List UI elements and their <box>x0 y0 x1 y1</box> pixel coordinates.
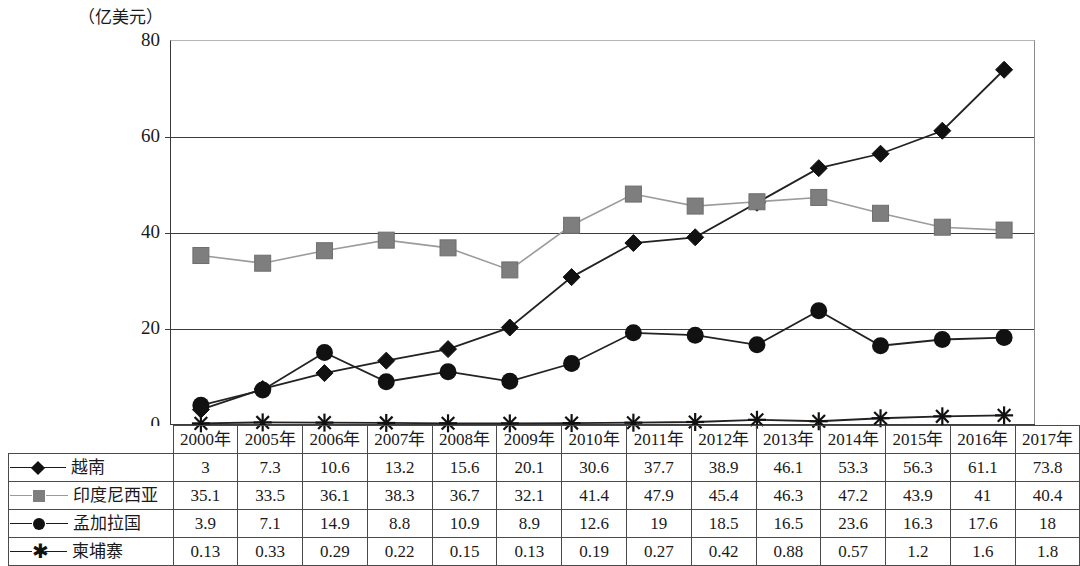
table-cell: 61.1 <box>950 454 1015 482</box>
table-cell: 0.33 <box>238 538 303 566</box>
table-header-row: 2000年2005年2006年2007年2008年2009年2010年2011年… <box>9 426 1080 454</box>
table-corner <box>9 426 174 454</box>
table-cell: 38.3 <box>367 482 432 510</box>
table-cell: 53.3 <box>821 454 886 482</box>
table-cell: 1.6 <box>950 538 1015 566</box>
legend-line <box>10 467 32 468</box>
table-cell: 47.9 <box>626 482 691 510</box>
legend-line <box>10 495 32 496</box>
table-cell: 0.15 <box>432 538 497 566</box>
table-cell: 36.7 <box>432 482 497 510</box>
legend-item-square: 印度尼西亚 <box>9 482 174 510</box>
table-cell: 0.13 <box>497 538 562 566</box>
circle-marker-icon <box>33 518 45 530</box>
table-cell: 32.1 <box>497 482 562 510</box>
table-row: 印度尼西亚35.133.536.138.336.732.141.447.945.… <box>9 482 1080 510</box>
table-column-header: 2013年 <box>756 426 821 454</box>
table-cell: 47.2 <box>821 482 886 510</box>
table-cell: 46.1 <box>756 454 821 482</box>
table-cell: 56.3 <box>886 454 951 482</box>
table-cell: 8.8 <box>367 510 432 538</box>
legend-label: 越南 <box>71 454 105 481</box>
table-cell: 0.42 <box>691 538 756 566</box>
table-cell: 3.9 <box>173 510 238 538</box>
table-cell: 43.9 <box>886 482 951 510</box>
table-cell: 7.3 <box>238 454 303 482</box>
table-column-header: 2016年 <box>950 426 1015 454</box>
legend-item-diamond: 越南 <box>9 454 174 482</box>
table-cell: 41 <box>950 482 1015 510</box>
table-cell: 36.1 <box>303 482 368 510</box>
data-table: 2000年2005年2006年2007年2008年2009年2010年2011年… <box>8 425 1080 566</box>
table-column-header: 2009年 <box>497 426 562 454</box>
table-column-header: 2010年 <box>562 426 627 454</box>
y-axis-tick-label: 20 <box>100 317 160 339</box>
table-cell: 37.7 <box>626 454 691 482</box>
table-cell: 0.88 <box>756 538 821 566</box>
series-square <box>193 186 1012 278</box>
table-cell: 14.9 <box>303 510 368 538</box>
table-cell: 10.6 <box>303 454 368 482</box>
table-cell: 8.9 <box>497 510 562 538</box>
legend-line <box>46 523 68 524</box>
legend-label: 柬埔寨 <box>72 538 123 565</box>
series-lines <box>0 0 1040 425</box>
table-cell: 10.9 <box>432 510 497 538</box>
table-cell: 30.6 <box>562 454 627 482</box>
table-column-header: 2011年 <box>626 426 691 454</box>
table-column-header: 2015年 <box>886 426 951 454</box>
y-axis-tick-label: 60 <box>100 125 160 147</box>
table-cell: 0.19 <box>562 538 627 566</box>
diamond-marker-icon <box>31 460 45 474</box>
table-column-header: 2017年 <box>1015 426 1080 454</box>
table-cell: 40.4 <box>1015 482 1080 510</box>
table-cell: 33.5 <box>238 482 303 510</box>
table-column-header: 2007年 <box>367 426 432 454</box>
table-cell: 41.4 <box>562 482 627 510</box>
legend-line <box>10 551 32 552</box>
table-cell: 17.6 <box>950 510 1015 538</box>
table-cell: 73.8 <box>1015 454 1080 482</box>
table-cell: 23.6 <box>821 510 886 538</box>
table-cell: 12.6 <box>562 510 627 538</box>
legend-item-asterisk: ✱柬埔寨 <box>9 538 174 566</box>
asterisk-marker-icon: ✱ <box>32 545 45 558</box>
table-cell: 0.57 <box>821 538 886 566</box>
table-cell: 3 <box>173 454 238 482</box>
series-circle <box>192 302 1012 414</box>
table-cell: 16.5 <box>756 510 821 538</box>
table-cell: 0.27 <box>626 538 691 566</box>
legend-line <box>44 467 66 468</box>
table-cell: 13.2 <box>367 454 432 482</box>
table-column-header: 2006年 <box>303 426 368 454</box>
table-cell: 20.1 <box>497 454 562 482</box>
table-cell: 1.8 <box>1015 538 1080 566</box>
table-cell: 18 <box>1015 510 1080 538</box>
legend-line <box>10 523 32 524</box>
table-column-header: 2000年 <box>173 426 238 454</box>
table-cell: 7.1 <box>238 510 303 538</box>
legend-line <box>45 551 67 552</box>
y-axis-tick-label: 80 <box>100 29 160 51</box>
square-marker-icon <box>33 490 45 502</box>
table-cell: 38.9 <box>691 454 756 482</box>
table-column-header: 2014年 <box>821 426 886 454</box>
table-cell: 46.3 <box>756 482 821 510</box>
table-column-header: 2012年 <box>691 426 756 454</box>
table-cell: 0.22 <box>367 538 432 566</box>
series-diamond <box>192 61 1012 418</box>
table-cell: 35.1 <box>173 482 238 510</box>
legend-line <box>46 495 68 496</box>
table-cell: 0.13 <box>173 538 238 566</box>
table-cell: 15.6 <box>432 454 497 482</box>
table-row: 越南37.310.613.215.620.130.637.738.946.153… <box>9 454 1080 482</box>
legend-label: 孟加拉国 <box>73 510 141 537</box>
table-column-header: 2005年 <box>238 426 303 454</box>
table-column-header: 2008年 <box>432 426 497 454</box>
table-row: 孟加拉国3.97.114.98.810.98.912.61918.516.523… <box>9 510 1080 538</box>
table-cell: 1.2 <box>886 538 951 566</box>
table-cell: 0.29 <box>303 538 368 566</box>
legend-label: 印度尼西亚 <box>73 482 158 509</box>
plot-wrapper: 020406080 <box>0 0 1040 425</box>
